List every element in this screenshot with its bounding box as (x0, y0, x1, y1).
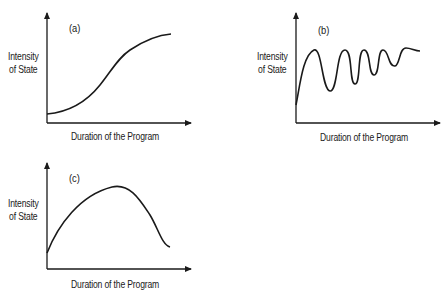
panel-b-curve (296, 48, 420, 105)
panel-c-y-label-line2: of State (8, 210, 39, 223)
panel-c-y-label: Intensity of State (8, 197, 39, 223)
panel-b-y-label-line2: of State (257, 63, 288, 76)
panel-a-y-label-line2: of State (8, 63, 39, 76)
panel-b-y-label: Intensity of State (257, 50, 288, 76)
panel-c-y-label-line1: Intensity (8, 197, 39, 210)
panel-a-y-label-line1: Intensity (8, 50, 39, 63)
diagram-canvas (0, 0, 447, 298)
panel-a-curve (47, 34, 171, 114)
panel-c-tag: (c) (69, 172, 80, 184)
panel-b-tag: (b) (318, 24, 329, 36)
panel-a-y-label: Intensity of State (8, 50, 39, 76)
panel-a-x-label: Duration of the Program (71, 130, 159, 143)
panel-c-x-label: Duration of the Program (71, 278, 159, 291)
panel-b-x-label: Duration of the Program (320, 131, 408, 144)
panel-a-tag: (a) (69, 22, 80, 34)
panel-c-curve (47, 186, 170, 253)
panel-b-y-label-line1: Intensity (257, 50, 288, 63)
